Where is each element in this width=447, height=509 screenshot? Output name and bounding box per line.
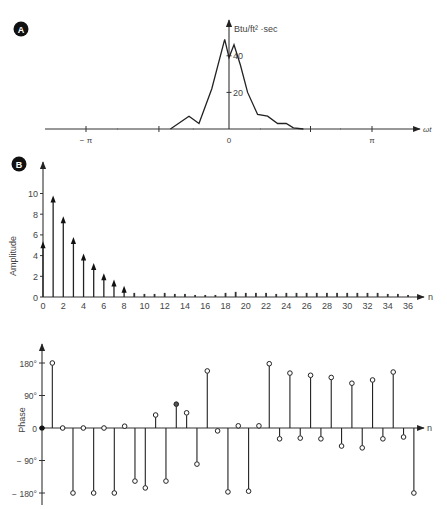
phase-y-tick-label: 90° [24, 391, 37, 401]
badge-a: A [14, 22, 29, 37]
phase-stem [60, 426, 65, 431]
amplitude-stem [245, 293, 247, 297]
amplitude-stem [91, 263, 96, 297]
amplitude-x-tick-label: 0 [40, 301, 45, 311]
phase-stem [257, 424, 262, 429]
amplitude-x-tick-label: 12 [160, 301, 170, 311]
amplitude-stem [346, 293, 348, 297]
phase-stem [102, 426, 107, 431]
phase-stem [391, 370, 396, 428]
amplitude-x-tick-label: 28 [322, 301, 332, 311]
amplitude-stem [122, 286, 127, 297]
phase-y-label: Phase [17, 407, 27, 433]
phase-stem [236, 424, 241, 429]
amplitude-stem [71, 237, 76, 297]
amplitude-stem [377, 293, 379, 297]
amplitude-stem [387, 294, 389, 297]
svg-text:A: A [18, 25, 25, 35]
amplitude-stem [285, 293, 287, 297]
panel-a: A Btu/ft² ·sec ωt 2040 − π0π [14, 20, 433, 145]
amplitude-y-tick-label: 10 [28, 189, 38, 199]
phase-n-label: n [427, 423, 432, 433]
fourier-figure: A Btu/ft² ·sec ωt 2040 − π0π B n Amplitu… [0, 0, 447, 509]
phase-stem [412, 428, 417, 495]
phase-stem [195, 428, 200, 466]
amplitude-stem [356, 293, 358, 297]
phase-stem [71, 428, 76, 495]
phase-stem [215, 428, 220, 433]
phase-stem [401, 428, 406, 439]
amplitude-x-tick-label: 2 [61, 301, 66, 311]
phase-stem [50, 361, 55, 428]
amplitude-y-tick-label: 8 [33, 210, 38, 220]
phase-stem [267, 361, 272, 428]
amplitude-stem [306, 293, 308, 297]
amplitude-stem [296, 293, 298, 297]
a-heat-flux-curve [170, 39, 303, 129]
phase-stem [133, 428, 138, 483]
amplitude-stem [397, 294, 399, 297]
amplitude-stem [235, 292, 237, 297]
amplitude-stem [133, 293, 135, 297]
amplitude-stem [275, 294, 277, 297]
phase-stem [164, 428, 169, 483]
amplitude-stem [61, 216, 66, 297]
phase-stem [39, 425, 44, 430]
phase-stem [246, 428, 251, 493]
badge-b: B [12, 157, 27, 172]
a-x-label: ωt [423, 125, 432, 134]
phase-y-tick-label: − 90° [17, 456, 37, 466]
amplitude-stems [40, 196, 409, 297]
amplitude-x-tick-label: 20 [241, 301, 251, 311]
phase-stem [319, 428, 324, 441]
amplitude-x-tick-label: 6 [101, 301, 106, 311]
phase-stem [381, 428, 386, 441]
amplitude-x-tick-label: 10 [139, 301, 149, 311]
amplitude-n-label: n [428, 292, 433, 302]
amplitude-stem [367, 293, 369, 297]
amplitude-stem [144, 294, 146, 297]
amplitude-stem [111, 279, 116, 297]
amplitude-x-tick-label: 8 [122, 301, 127, 311]
phase-stem [308, 373, 313, 428]
phase-stem [226, 428, 231, 494]
amplitude-stem [336, 293, 338, 297]
phase-stem [91, 428, 96, 495]
amplitude-stem [164, 293, 166, 297]
amplitude-stem [225, 293, 227, 297]
amplitude-stem [265, 293, 267, 297]
amplitude-x-tick-label: 36 [403, 301, 413, 311]
a-x-tick-label: π [369, 136, 375, 145]
amplitude-x-tick-label: 22 [261, 301, 271, 311]
amplitude-stem [101, 273, 106, 297]
amplitude-stem [407, 295, 409, 297]
phase-stem [112, 428, 117, 495]
a-x-tick-label: − π [80, 136, 93, 145]
phase-stem [143, 428, 148, 490]
phase-stem [339, 428, 344, 448]
phase-stem [360, 428, 365, 450]
amplitude-y-tick-label: 4 [33, 251, 38, 261]
amplitude-y-tick-label: 6 [33, 230, 38, 240]
a-y-unit-label: Btu/ft² ·sec [234, 24, 278, 34]
phase-stem [277, 428, 282, 441]
amplitude-stem [316, 293, 318, 297]
amplitude-y-tick-label: 2 [33, 272, 38, 282]
phase-stem [174, 402, 179, 428]
a-x-tick-label: 0 [227, 136, 232, 145]
amplitude-stem [51, 196, 56, 297]
amplitude-stem [184, 294, 186, 297]
panel-b: B n Amplitude 0246810 024681012141618202… [8, 157, 433, 506]
amplitude-y-ticks: 0246810 [28, 189, 43, 303]
amplitude-x-tick-label: 16 [200, 301, 210, 311]
amplitude-stem [204, 295, 206, 297]
phase-stem [298, 428, 303, 440]
amplitude-x-tick-label: 18 [221, 301, 231, 311]
amplitude-stem [174, 294, 176, 297]
amplitude-stem [154, 294, 156, 297]
phase-stem [81, 426, 86, 431]
amplitude-x-tick-label: 26 [302, 301, 312, 311]
phase-stem [329, 375, 334, 428]
amplitude-x-tick-label: 30 [342, 301, 352, 311]
amplitude-stem [255, 293, 257, 297]
